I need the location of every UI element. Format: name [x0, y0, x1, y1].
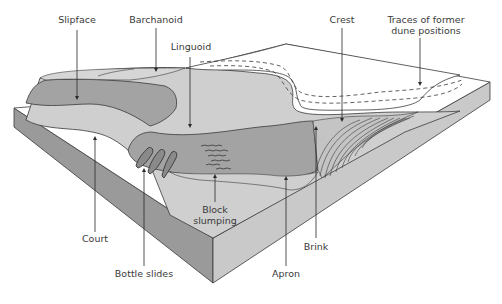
label-apron: Apron	[266, 268, 306, 279]
label-linguoid: Linguoid	[168, 41, 214, 52]
label-traces-line1: Traces of former	[380, 14, 472, 25]
label-bottle-slides: Bottle slides	[112, 268, 176, 279]
label-traces-line2: dune positions	[380, 25, 472, 36]
label-court: Court	[78, 233, 112, 244]
label-slipface: Slipface	[55, 14, 99, 25]
label-brink: Brink	[299, 241, 333, 252]
label-barchanoid: Barchanoid	[128, 14, 184, 25]
dune-block-diagram	[0, 0, 502, 304]
label-crest: Crest	[325, 14, 359, 25]
label-block-line1: Block	[195, 204, 235, 215]
label-block-line2: slumping	[190, 215, 240, 226]
